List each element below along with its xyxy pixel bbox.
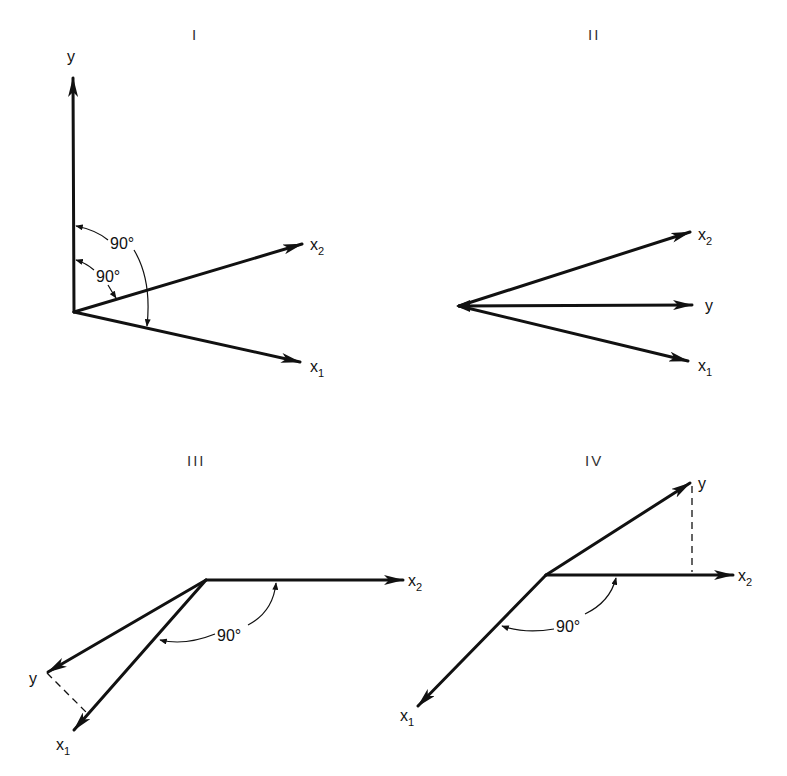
vector-x1 [74, 580, 206, 730]
label-y: y [698, 475, 706, 492]
angle-arc-x1-x2-left [160, 634, 215, 642]
origin-vertex [456, 300, 470, 312]
panel-iv: IV y x2 x1 90° [400, 452, 752, 728]
vector-x1 [459, 306, 688, 361]
vector-diagram-figure: I y x2 x1 90° 90° II x2 y x1 III x2 y [0, 0, 787, 776]
panel-iii: III x2 y x1 90° [29, 452, 422, 757]
angle-label-x1-x2: 90° [217, 627, 241, 644]
label-x1: x1 [698, 357, 712, 378]
vector-y [73, 78, 74, 312]
angle-arc-x1-x2-left [502, 626, 554, 631]
panel-i-title: I [192, 26, 198, 43]
panel-iv-title: IV [585, 452, 603, 469]
vector-y [459, 305, 692, 306]
angle-arc-y-x2-top [76, 260, 94, 270]
angle-arc-y-x1-bottom [134, 250, 148, 326]
panel-ii: II x2 y x1 [456, 26, 713, 378]
label-x2: x2 [310, 236, 324, 257]
label-x2: x2 [698, 226, 712, 247]
vector-y [546, 483, 690, 575]
angle-arc-x1-x2-right [248, 583, 276, 625]
angle-arc-y-x1-top [76, 226, 108, 240]
label-x2: x2 [408, 572, 422, 593]
projection-dash-y-to-x1 [47, 673, 86, 712]
label-x1: x1 [56, 736, 70, 757]
angle-arc-x1-x2-right [585, 578, 616, 614]
vector-x2 [459, 232, 690, 306]
angle-arc-y-x2-bottom [108, 285, 116, 298]
label-y: y [67, 48, 75, 65]
vector-x1 [418, 575, 546, 706]
label-y: y [705, 297, 713, 314]
panel-ii-title: II [588, 26, 600, 43]
angle-label-y-x1: 90° [110, 235, 134, 252]
panel-i: I y x2 x1 90° 90° [67, 26, 324, 379]
label-x2: x2 [738, 567, 752, 588]
label-y: y [29, 670, 37, 687]
vector-y [48, 580, 206, 672]
panel-iii-title: III [187, 452, 206, 469]
angle-label-y-x2: 90° [96, 268, 120, 285]
label-x1: x1 [310, 358, 324, 379]
vector-x1 [74, 312, 300, 362]
angle-label-x1-x2: 90° [556, 618, 580, 635]
label-x1: x1 [400, 707, 414, 728]
